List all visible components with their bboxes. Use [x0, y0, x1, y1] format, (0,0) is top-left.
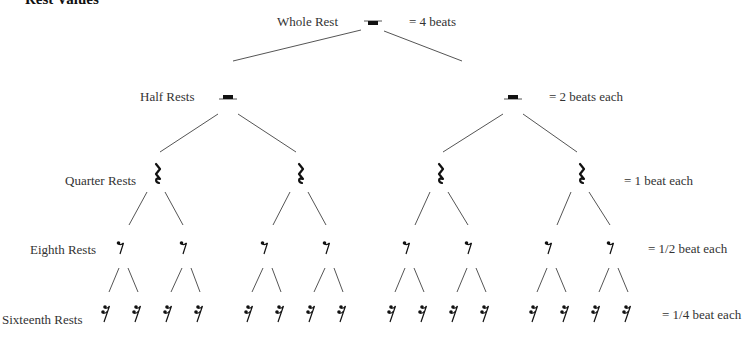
half-rest-icon	[504, 95, 522, 99]
quarter-rest-icon	[580, 164, 584, 183]
sixteenth-rest-icon	[418, 305, 426, 322]
sixteenth-rest-icon	[529, 305, 537, 322]
tree-connector-lines	[109, 30, 628, 292]
connector-line	[334, 268, 343, 292]
connector-line	[128, 268, 138, 292]
sixteenth-rest-icon	[560, 305, 568, 322]
connector-line	[314, 268, 325, 292]
whole-rest-icon	[364, 21, 382, 25]
connector-line	[395, 268, 405, 292]
sixteenth-rest-icon	[337, 305, 345, 322]
connector-line	[109, 268, 119, 292]
sixteenth-rest-icon	[449, 305, 457, 322]
eighth-rest-icon	[323, 241, 330, 254]
sixteenth-rest-icon	[194, 305, 202, 322]
connector-line	[165, 192, 183, 225]
connector-line	[618, 268, 628, 292]
connector-line	[414, 268, 424, 292]
connector-line	[599, 268, 609, 292]
half-rest-icon	[219, 95, 237, 99]
connector-line	[557, 192, 571, 225]
eighth-rest-icon	[261, 241, 268, 254]
sixteenth-rest-icon	[591, 305, 599, 322]
connector-line	[191, 268, 200, 292]
connector-line	[273, 192, 290, 225]
connector-line	[238, 114, 296, 152]
connector-line	[308, 192, 326, 225]
connector-line	[537, 268, 547, 292]
rest-tree-diagram	[0, 0, 753, 338]
connector-line	[272, 268, 281, 292]
connector-line	[589, 192, 610, 225]
eighth-rest-icon	[180, 241, 187, 254]
connector-line	[476, 268, 486, 292]
sixteenth-rest-icon	[306, 305, 314, 322]
connector-line	[384, 31, 462, 61]
quarter-rest-icon	[156, 164, 160, 183]
connector-line	[129, 192, 147, 225]
quarter-rest-icon	[299, 164, 303, 183]
connector-line	[160, 114, 218, 152]
connector-line	[443, 114, 503, 152]
sixteenth-rest-icon	[275, 305, 283, 322]
connector-line	[252, 268, 263, 292]
rest-glyphs	[101, 21, 630, 322]
sixteenth-rest-icon	[244, 305, 252, 322]
eighth-rest-icon	[117, 241, 124, 254]
sixteenth-rest-icon	[163, 305, 171, 322]
sixteenth-rest-icon	[132, 305, 140, 322]
sixteenth-rest-icon	[101, 305, 109, 322]
sixteenth-rest-icon	[622, 305, 630, 322]
connector-line	[171, 268, 182, 292]
connector-line	[448, 192, 468, 225]
connector-line	[523, 114, 577, 152]
eighth-rest-icon	[607, 241, 614, 254]
eighth-rest-icon	[545, 241, 552, 254]
sixteenth-rest-icon	[387, 305, 395, 322]
connector-line	[556, 268, 566, 292]
connector-line	[233, 30, 361, 61]
eighth-rest-icon	[403, 241, 410, 254]
quarter-rest-icon	[439, 164, 443, 183]
connector-line	[415, 192, 430, 225]
eighth-rest-icon	[465, 241, 472, 254]
sixteenth-rest-icon	[480, 305, 488, 322]
connector-line	[457, 268, 467, 292]
